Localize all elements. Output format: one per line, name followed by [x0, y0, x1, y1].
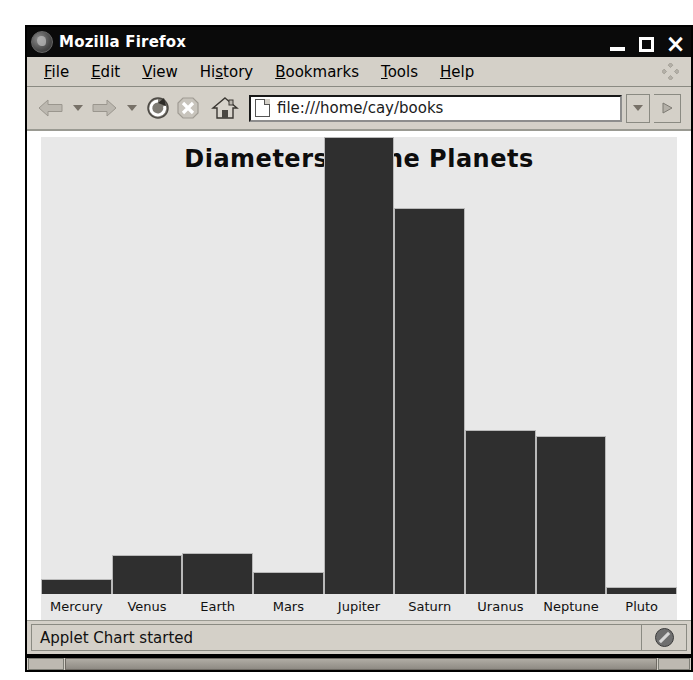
chart-bar	[394, 208, 465, 594]
forward-dropdown-icon[interactable]	[127, 105, 137, 111]
status-message: Applet Chart started	[31, 624, 642, 651]
scroll-track[interactable]	[65, 658, 657, 670]
menu-item-history[interactable]: History	[189, 61, 264, 83]
applet-chart-panel: Diameters of the Planets MercuryVenusEar…	[41, 137, 677, 620]
window-bottom-scrollbar[interactable]	[25, 656, 693, 672]
chart-axis-label: Earth	[182, 596, 253, 618]
menu-item-tools[interactable]: Tools	[370, 61, 429, 83]
throbber-icon	[662, 63, 679, 80]
url-dropdown-button[interactable]	[626, 94, 650, 123]
menu-label-mnemonic: V	[142, 63, 152, 81]
window-title: Mozilla Firefox	[59, 33, 602, 51]
chevron-down-icon	[633, 105, 643, 111]
menu-label-post: ookmarks	[285, 63, 359, 81]
chart-bar-column	[465, 137, 536, 594]
reload-icon[interactable]	[145, 95, 171, 121]
stop-icon[interactable]	[175, 95, 201, 121]
status-security-area[interactable]	[642, 624, 687, 651]
chart-bar-column	[41, 137, 112, 594]
menu-label-post: tory	[223, 63, 253, 81]
chart-axis-label: Mercury	[41, 596, 112, 618]
chart-x-axis-labels: MercuryVenusEarthMarsJupiterSaturnUranus…	[41, 596, 677, 618]
menu-label-pre: Hi	[200, 63, 215, 81]
chart-bar	[253, 572, 324, 594]
chart-bar	[182, 553, 253, 594]
chart-axis-label: Uranus	[465, 596, 536, 618]
window-title-bar[interactable]: Mozilla Firefox ×	[27, 27, 691, 57]
chart-bar	[465, 430, 536, 594]
chart-plot-area	[41, 137, 677, 594]
close-button[interactable]: ×	[662, 30, 689, 55]
menu-label-mnemonic: T	[381, 63, 388, 81]
browser-window: Mozilla Firefox × File Edit View History…	[25, 25, 693, 656]
firefox-logo-icon	[31, 31, 53, 53]
chart-bar	[324, 137, 395, 594]
chart-bar-column	[324, 137, 395, 594]
scroll-left-button[interactable]	[28, 658, 64, 670]
chart-axis-label: Venus	[112, 596, 183, 618]
menu-label-mnemonic: F	[44, 63, 52, 81]
page-document-icon	[255, 99, 270, 117]
menu-label-post: ools	[388, 63, 418, 81]
desktop-background: Mozilla Firefox × File Edit View History…	[0, 0, 693, 680]
minimize-button[interactable]	[604, 30, 631, 55]
chart-bar	[536, 436, 607, 594]
maximize-icon	[639, 37, 654, 52]
chart-bar-column	[394, 137, 465, 594]
maximize-button[interactable]	[633, 30, 660, 55]
security-slash-icon	[655, 628, 674, 647]
browser-content-area: Diameters of the Planets MercuryVenusEar…	[27, 131, 691, 620]
menu-item-help[interactable]: Help	[429, 61, 485, 83]
minimize-icon	[610, 47, 625, 51]
menu-item-edit[interactable]: Edit	[80, 61, 131, 83]
menu-label-mnemonic: B	[275, 63, 285, 81]
chart-axis-label: Jupiter	[324, 596, 395, 618]
menu-label-mnemonic: s	[215, 63, 223, 81]
chart-axis-label: Neptune	[536, 596, 607, 618]
chart-bar-column	[112, 137, 183, 594]
chart-bar	[606, 587, 677, 594]
chart-bar	[41, 579, 112, 594]
chart-bar-column	[182, 137, 253, 594]
home-icon[interactable]	[211, 95, 239, 121]
menu-label-post: iew	[152, 63, 178, 81]
chart-axis-label: Mars	[253, 596, 324, 618]
back-arrow-icon[interactable]	[37, 96, 65, 120]
status-bar: Applet Chart started	[27, 620, 691, 654]
chart-bar	[112, 555, 183, 594]
menu-item-view[interactable]: View	[131, 61, 189, 83]
back-dropdown-icon[interactable]	[73, 105, 83, 111]
forward-arrow-icon[interactable]	[91, 96, 119, 120]
url-bar[interactable]: file:///home/cay/books	[249, 95, 622, 122]
chart-axis-label: Pluto	[606, 596, 677, 618]
menu-label-post: ile	[52, 63, 70, 81]
go-button[interactable]	[654, 94, 681, 123]
menu-item-file[interactable]: File	[33, 61, 80, 83]
menu-bar: File Edit View History Bookmarks Tools H…	[27, 57, 691, 87]
chart-bar-column	[536, 137, 607, 594]
close-icon: ×	[665, 33, 685, 55]
menu-label-post: dit	[101, 63, 121, 81]
url-input[interactable]: file:///home/cay/books	[277, 99, 443, 117]
go-arrow-icon	[660, 101, 674, 115]
chart-bar-column	[253, 137, 324, 594]
navigation-toolbar: file:///home/cay/books	[27, 87, 691, 131]
scroll-right-button[interactable]	[658, 658, 690, 670]
chart-axis-label: Saturn	[394, 596, 465, 618]
menu-label-post: elp	[451, 63, 474, 81]
chart-bar-column	[606, 137, 677, 594]
menu-item-bookmarks[interactable]: Bookmarks	[264, 61, 370, 83]
menu-label-mnemonic: E	[91, 63, 100, 81]
menu-label-mnemonic: H	[440, 63, 451, 81]
